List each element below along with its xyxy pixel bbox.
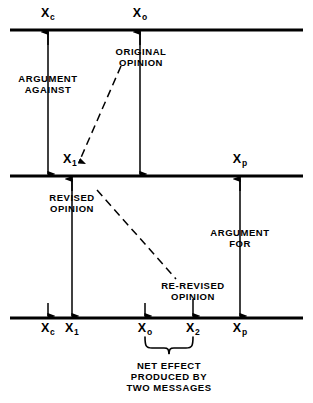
caption-revised-opinion-line1: REVISED (49, 192, 95, 203)
label-x1-bottom: X1 (65, 321, 79, 336)
caption-argument-for-line2: FOR (210, 238, 269, 249)
label-xo-top: Xo (133, 6, 147, 21)
label-xc-top: Xc (41, 6, 55, 21)
label-xp-bottom: Xp (233, 321, 247, 336)
caption-original-opinion-line1: ORIGINAL (116, 46, 167, 57)
caption-original-opinion-line2: OPINION (116, 57, 167, 68)
caption-revised-opinion: REVISED OPINION (49, 192, 95, 214)
figure-root: Xc Xo ARGUMENT AGAINST ORIGINAL OPINION … (0, 0, 313, 403)
net-effect-brace (145, 337, 193, 354)
label-xp-middle: Xp (233, 152, 247, 167)
label-xc-bottom: Xc (41, 321, 55, 336)
caption-argument-against: ARGUMENT AGAINST (18, 73, 77, 95)
caption-re-revised-opinion: RE-REVISED OPINION (161, 280, 225, 302)
label-x2-bottom: X2 (186, 321, 200, 336)
revised-opinion-leader-dashed (80, 66, 122, 161)
label-x1-middle: X1 (63, 152, 77, 167)
re-revised-opinion-leader-dashed (97, 190, 176, 279)
caption-net-effect-line1: NET EFFECT (126, 360, 211, 371)
caption-argument-against-line1: ARGUMENT (18, 73, 77, 84)
caption-net-effect: NET EFFECT PRODUCED BY TWO MESSAGES (126, 360, 211, 394)
caption-re-revised-opinion-line1: RE-REVISED (161, 280, 225, 291)
caption-revised-opinion-line2: OPINION (49, 203, 95, 214)
caption-argument-for-line1: ARGUMENT (210, 227, 269, 238)
caption-original-opinion: ORIGINAL OPINION (116, 46, 167, 68)
caption-net-effect-line2: PRODUCED BY (126, 371, 211, 382)
caption-re-revised-opinion-line2: OPINION (161, 291, 225, 302)
label-xo-bottom: Xo (138, 321, 152, 336)
caption-argument-against-line2: AGAINST (18, 84, 77, 95)
caption-argument-for: ARGUMENT FOR (210, 227, 269, 249)
caption-net-effect-line3: TWO MESSAGES (126, 382, 211, 393)
